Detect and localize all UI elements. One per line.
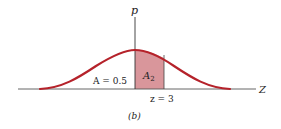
left-area-label: A = 0.5 — [92, 76, 127, 86]
x-axis-label: Z — [258, 84, 267, 95]
figure-caption: (b) — [128, 111, 141, 121]
normal-distribution-diagram: p Z A = 0.5 A2 z = 3 (b) — [0, 0, 281, 129]
y-axis-label: p — [131, 4, 138, 17]
z-marker-label: z = 3 — [150, 94, 174, 104]
